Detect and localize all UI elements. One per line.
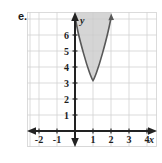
y-tick-label: 6 [64,30,69,41]
x-tick-label: -1 [53,134,61,145]
x-tick-label: 2 [109,134,114,145]
x-tick-label: 3 [127,134,132,145]
figure-container: e. [0,0,162,163]
y-tick-label: 3 [64,78,69,89]
part-label: e. [18,10,27,22]
coordinate-plane-svg: -2 -1 1 2 3 4 1 2 3 4 5 6 y x [27,12,157,147]
x-tick-label: -2 [35,134,43,145]
x-tick-label: 1 [91,134,96,145]
plot-area: -2 -1 1 2 3 4 1 2 3 4 5 6 y x [27,12,157,147]
y-tick-label: 2 [64,94,69,105]
y-tick-label: 5 [64,46,69,57]
x-axis-label: x [148,134,154,145]
y-tick-label: 1 [64,110,69,121]
y-axis-label: y [79,15,85,26]
y-tick-label: 4 [64,62,69,73]
